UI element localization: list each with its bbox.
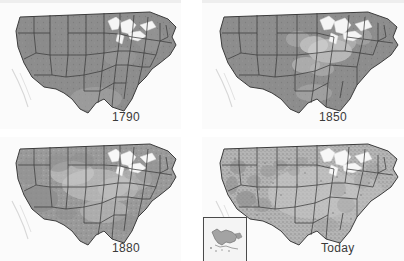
map-panel-1790[interactable]: 1790 (0, 3, 181, 129)
panel-label-1880: 1880 (112, 241, 140, 255)
map-panel-today[interactable]: Today (202, 137, 404, 261)
panel-label-1790: 1790 (112, 110, 140, 124)
map-image-1880 (0, 137, 181, 261)
map-image-1850 (202, 3, 404, 129)
panel-label-today: Today (321, 241, 355, 255)
forest-cover-map-figure: 1790 (0, 0, 404, 261)
row-gutter (0, 129, 404, 137)
alaska-inset[interactable] (203, 217, 247, 261)
map-panel-1850[interactable]: 1850 (202, 3, 404, 129)
map-panel-1880[interactable]: 1880 (0, 137, 181, 261)
panel-label-1850: 1850 (319, 110, 347, 124)
map-image-1790 (0, 3, 181, 129)
